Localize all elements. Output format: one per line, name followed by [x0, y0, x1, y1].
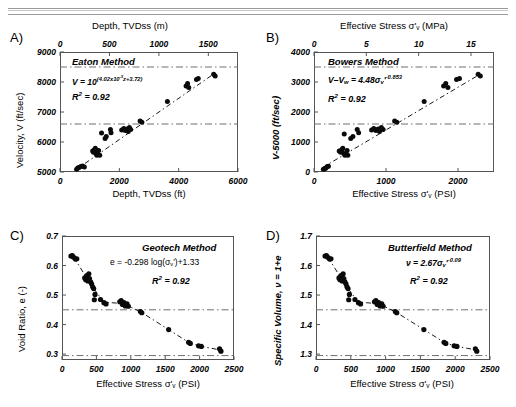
panel-a-ytick: 5000 [20, 167, 56, 177]
panel-b-xtick: 1000 [377, 176, 396, 186]
panel-b-ytick: 1000 [274, 137, 310, 147]
panel-a: A) Depth, TVDss (m) Velocity, V (ft/sec)… [0, 0, 258, 203]
panel-a-ytick: 9000 [20, 47, 56, 57]
panel-d-xtick: 2000 [446, 364, 465, 374]
panel-d-xtick: 1500 [411, 364, 430, 374]
panel-d-bottom-axis-title: Effective Stress σ'v (PSI) [302, 378, 502, 389]
panel-b-ytick: 2000 [274, 107, 310, 117]
panel-c-bottom-axis-title: Effective Stress σ'v (PSI) [48, 378, 248, 389]
panel-a-ytick: 6000 [20, 137, 56, 147]
panel-c-xtick: 2500 [225, 364, 244, 374]
panel-a-xtick-top: 1000 [149, 39, 168, 49]
panel-c-ytick: 0.7 [22, 231, 58, 241]
panel-b-ytick: 4000 [274, 47, 310, 57]
panel-a-xtick-top: 1500 [199, 39, 218, 49]
panel-d: D) Specific Volume, ν = 1+e Butterfield … [258, 200, 516, 403]
panel-d-ytick: 1.4 [276, 320, 312, 330]
panel-a-ytick: 8000 [20, 77, 56, 87]
panel-d-xtick: 1000 [376, 364, 395, 374]
panel-a-xtick: 0 [58, 176, 63, 186]
panel-d-ytick: 1.6 [276, 261, 312, 271]
panel-c-ytick: 0.6 [22, 261, 58, 271]
panel-b-xtick-top: 0 [312, 39, 317, 49]
panel-d-xtick: 500 [344, 364, 358, 374]
panel-a-xtick-top: 0 [58, 39, 63, 49]
panel-c-xtick: 0 [60, 364, 65, 374]
panel-d-ytick: 1.5 [276, 290, 312, 300]
panel-c-ytick: 0.4 [22, 320, 58, 330]
panel-b-xtick-top: 10 [414, 39, 423, 49]
panel-d-xtick: 0 [314, 364, 319, 374]
panel-d-ytick: 1.7 [276, 231, 312, 241]
panel-b-xtick-top: 15 [466, 39, 475, 49]
panel-b-xtick: 0 [312, 176, 317, 186]
panel-a-xtick: 2000 [110, 176, 129, 186]
panel-b-bottom-axis-title: Effective Stress σ'v (PSI) [304, 188, 504, 199]
panel-a-ytick: 7000 [20, 107, 56, 117]
panel-b-xtick: 2000 [449, 176, 468, 186]
panel-c-ytick: 0.5 [22, 290, 58, 300]
panel-d-xtick: 2500 [481, 364, 500, 374]
panel-c-xtick: 2000 [190, 364, 209, 374]
panel-c: C) Void Ratio, e (-) Geotech Method e = … [0, 200, 258, 403]
panel-c-xtick: 1500 [156, 364, 175, 374]
panel-c-ytick: 0.3 [22, 349, 58, 359]
panel-a-bottom-axis-title: Depth, TVDss (ft) [60, 188, 238, 199]
panel-b: B) Effective Stress σ'v (MPa) V-5000 (ft… [258, 0, 516, 203]
panel-d-ytick: 1.3 [276, 349, 312, 359]
panel-c-xtick: 1000 [121, 364, 140, 374]
panel-c-xtick: 500 [89, 364, 103, 374]
panel-b-xtick-top: 5 [364, 39, 369, 49]
panel-a-xtick: 6000 [229, 176, 248, 186]
panel-b-ytick: 0 [274, 167, 310, 177]
panel-a-xtick: 4000 [169, 176, 188, 186]
panel-b-ytick: 3000 [274, 77, 310, 87]
panel-a-xtick-top: 500 [102, 39, 116, 49]
